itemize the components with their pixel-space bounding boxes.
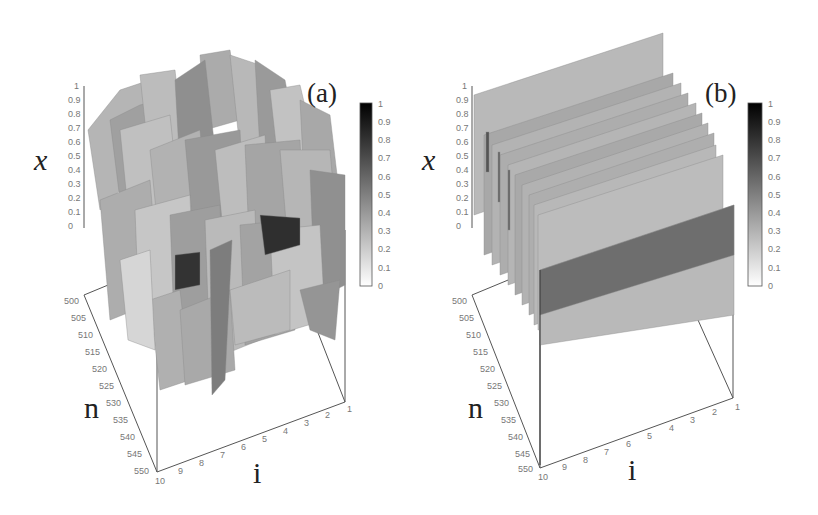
svg-text:8: 8 [583,455,588,465]
svg-text:510: 510 [78,330,93,340]
svg-text:0.7: 0.7 [768,153,781,163]
svg-text:0.9: 0.9 [768,117,781,127]
svg-text:8: 8 [199,458,204,468]
svg-text:500: 500 [452,296,467,306]
panel-a: 0 0.1 0.2 0.3 0.4 0.5 0.6 0.7 0.8 0.9 1 … [0,0,409,515]
svg-text:0: 0 [768,281,773,291]
svg-text:0.1: 0.1 [456,207,469,217]
svg-text:545: 545 [515,449,530,459]
svg-text:0.4: 0.4 [456,165,469,175]
svg-text:9: 9 [178,466,183,476]
svg-text:10: 10 [538,472,548,482]
z-axis-label-a: x [33,143,48,176]
svg-text:0.1: 0.1 [768,263,781,273]
panel-label-a: (a) [307,78,337,108]
svg-text:0.9: 0.9 [68,95,81,105]
svg-text:0.8: 0.8 [768,135,781,145]
svg-text:535: 535 [113,415,128,425]
svg-text:525: 525 [487,381,502,391]
svg-text:10: 10 [155,476,165,486]
svg-text:0.3: 0.3 [768,226,781,236]
svg-text:4: 4 [283,426,288,436]
svg-text:7: 7 [604,447,609,457]
svg-text:530: 530 [494,398,509,408]
svg-text:530: 530 [106,398,121,408]
surface-plot-b: 0 0.1 0.2 0.3 0.4 0.5 0.6 0.7 0.8 0.9 1 … [388,0,797,515]
panel-label-b: (b) [705,78,736,108]
svg-text:1: 1 [378,99,383,109]
n-axis-label-a: n [84,391,99,424]
svg-text:0.2: 0.2 [456,193,469,203]
svg-text:540: 540 [120,432,135,442]
svg-text:0.5: 0.5 [68,151,81,161]
panel-b: 0 0.1 0.2 0.3 0.4 0.5 0.6 0.7 0.8 0.9 1 … [388,0,797,515]
svg-text:0.6: 0.6 [768,172,781,182]
svg-text:1: 1 [735,402,740,412]
svg-text:0.2: 0.2 [68,193,81,203]
svg-text:1: 1 [462,81,467,91]
svg-text:2: 2 [712,407,717,417]
z-axis-ticks-a: 0 0.1 0.2 0.3 0.4 0.5 0.6 0.7 0.8 0.9 1 [68,81,81,231]
svg-text:4: 4 [669,423,674,433]
svg-text:550: 550 [134,466,149,476]
svg-text:6: 6 [626,439,631,449]
svg-text:0.7: 0.7 [456,123,469,133]
svg-text:0.9: 0.9 [456,95,469,105]
svg-text:0.4: 0.4 [768,208,781,218]
svg-text:540: 540 [508,432,523,442]
svg-text:0.5: 0.5 [768,190,781,200]
svg-text:0.6: 0.6 [68,137,81,147]
svg-text:515: 515 [473,347,488,357]
n-axis-label-b: n [468,391,483,424]
svg-text:0: 0 [378,281,383,291]
svg-text:515: 515 [85,347,100,357]
surface-plot-a: 0 0.1 0.2 0.3 0.4 0.5 0.6 0.7 0.8 0.9 1 … [0,0,409,515]
z-axis-label-b: x [421,143,436,176]
colorbar-b: 0 0.1 0.2 0.3 0.4 0.5 0.6 0.7 0.8 0.9 1 [748,99,781,291]
svg-text:2: 2 [325,410,330,420]
svg-text:1: 1 [768,99,773,109]
svg-text:545: 545 [127,449,142,459]
svg-text:3: 3 [304,418,309,428]
svg-text:0.3: 0.3 [68,179,81,189]
svg-text:525: 525 [99,381,114,391]
svg-text:7: 7 [220,450,225,460]
svg-text:505: 505 [71,313,86,323]
svg-text:0.1: 0.1 [68,207,81,217]
svg-text:5: 5 [262,434,267,444]
colorbar-a: 0 0.1 0.2 0.3 0.4 0.5 0.6 0.7 0.8 0.9 1 [360,99,391,291]
svg-text:505: 505 [459,313,474,323]
svg-text:5: 5 [647,431,652,441]
svg-text:500: 500 [64,296,79,306]
svg-text:535: 535 [501,415,516,425]
i-axis-ticks-b: 10 9 8 7 6 5 4 3 2 1 [538,402,740,482]
svg-text:520: 520 [92,364,107,374]
svg-text:0.8: 0.8 [68,109,81,119]
svg-text:6: 6 [241,442,246,452]
svg-text:0.6: 0.6 [456,137,469,147]
i-axis-label-a: i [253,456,261,489]
svg-text:0.2: 0.2 [768,244,781,254]
svg-text:0.8: 0.8 [456,109,469,119]
i-axis-label-b: i [628,453,636,486]
n-axis-ticks-b: 500 505 510 515 520 525 530 535 540 545 … [452,296,533,474]
svg-text:550: 550 [518,464,533,474]
svg-text:0: 0 [68,221,73,231]
svg-text:3: 3 [690,415,695,425]
svg-text:0.4: 0.4 [68,165,81,175]
svg-text:520: 520 [480,364,495,374]
svg-text:0: 0 [456,221,461,231]
z-axis-ticks-b: 0 0.1 0.2 0.3 0.4 0.5 0.6 0.7 0.8 0.9 1 [456,81,469,231]
svg-text:0.7: 0.7 [68,123,81,133]
svg-text:510: 510 [466,330,481,340]
svg-text:0.5: 0.5 [456,151,469,161]
svg-text:1: 1 [347,404,352,414]
svg-text:9: 9 [562,462,567,472]
svg-text:0.3: 0.3 [456,179,469,189]
svg-text:1: 1 [74,81,79,91]
